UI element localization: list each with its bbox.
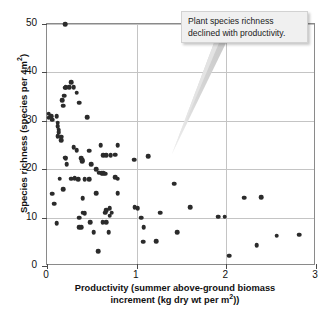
data-point bbox=[135, 206, 140, 211]
data-point bbox=[255, 243, 260, 248]
x-tick-label: 1 bbox=[126, 270, 146, 280]
data-point bbox=[96, 249, 101, 254]
annotation-callout-text: Plant species richness declined with pro… bbox=[188, 16, 303, 39]
data-point bbox=[107, 213, 112, 218]
annotation-callout-box: Plant species richness declined with pro… bbox=[181, 11, 308, 43]
data-point bbox=[158, 210, 163, 215]
data-point bbox=[72, 85, 77, 90]
data-point bbox=[79, 225, 84, 230]
gridline-horizontal bbox=[47, 218, 314, 219]
data-point bbox=[87, 177, 92, 182]
data-point bbox=[146, 154, 151, 159]
data-point bbox=[297, 232, 302, 237]
y-axis-tick bbox=[42, 24, 47, 25]
y-tick-label: 50 bbox=[15, 18, 37, 28]
data-point bbox=[175, 230, 180, 235]
data-point bbox=[61, 103, 66, 108]
y-axis-tick bbox=[42, 121, 47, 122]
data-point bbox=[50, 192, 55, 197]
y-axis-label-superscript: 2 bbox=[16, 57, 23, 61]
data-point bbox=[88, 220, 93, 225]
x-tick-label: 3 bbox=[305, 270, 325, 280]
y-tick-label: 30 bbox=[15, 115, 37, 125]
gridline-vertical bbox=[137, 24, 138, 264]
gridline-horizontal bbox=[47, 72, 314, 73]
data-point bbox=[57, 177, 62, 182]
data-point bbox=[74, 148, 79, 153]
data-point bbox=[99, 143, 104, 148]
data-point bbox=[116, 143, 121, 148]
plot-area bbox=[46, 23, 315, 265]
data-point bbox=[116, 177, 121, 182]
data-point bbox=[89, 162, 94, 167]
data-point bbox=[61, 187, 66, 192]
data-point bbox=[94, 191, 99, 196]
data-point bbox=[77, 101, 82, 106]
data-point bbox=[141, 240, 146, 245]
data-point bbox=[222, 214, 227, 219]
data-point bbox=[55, 221, 60, 226]
data-point bbox=[76, 177, 81, 182]
y-tick-label: 0 bbox=[15, 260, 37, 270]
data-point bbox=[216, 214, 221, 219]
data-point bbox=[50, 118, 55, 123]
data-point bbox=[132, 157, 137, 162]
data-point bbox=[104, 220, 109, 225]
data-point bbox=[87, 149, 92, 154]
gridline-horizontal bbox=[47, 121, 314, 122]
y-axis-tick bbox=[42, 72, 47, 73]
data-point bbox=[274, 233, 279, 238]
data-point bbox=[154, 239, 159, 244]
data-point bbox=[77, 215, 82, 220]
gridline-vertical bbox=[226, 24, 227, 264]
data-point bbox=[227, 254, 232, 259]
data-point bbox=[142, 225, 147, 230]
y-tick-label: 20 bbox=[15, 163, 37, 173]
data-point bbox=[64, 162, 69, 167]
scatter-plot-figure: Species richness (species per 4m2) Produ… bbox=[0, 0, 333, 309]
data-point bbox=[259, 195, 264, 200]
y-tick-label: 40 bbox=[15, 66, 37, 76]
data-point bbox=[81, 158, 86, 163]
x-tick-label: 2 bbox=[215, 270, 235, 280]
data-point bbox=[69, 80, 74, 85]
y-tick-label: 10 bbox=[15, 212, 37, 222]
y-axis-tick bbox=[42, 169, 47, 170]
y-axis-tick bbox=[42, 218, 47, 219]
data-point bbox=[91, 230, 96, 235]
data-point bbox=[64, 156, 69, 161]
data-point bbox=[188, 205, 193, 210]
x-axis-label-line1: Productivity (summer above-ground biomas… bbox=[75, 283, 275, 293]
data-point bbox=[242, 195, 247, 200]
gridline-horizontal bbox=[47, 169, 314, 170]
data-point bbox=[59, 138, 64, 143]
data-point bbox=[62, 93, 67, 98]
x-tick-label: 0 bbox=[36, 270, 56, 280]
data-point bbox=[103, 171, 108, 176]
data-point bbox=[139, 215, 144, 220]
x-axis-label: Productivity (summer above-ground biomas… bbox=[30, 283, 320, 306]
data-point bbox=[113, 152, 118, 157]
data-point bbox=[74, 90, 79, 95]
data-point bbox=[63, 22, 68, 27]
data-point bbox=[116, 191, 121, 196]
data-point bbox=[60, 98, 65, 103]
data-point bbox=[55, 114, 60, 119]
data-point bbox=[172, 181, 177, 186]
data-point bbox=[82, 211, 87, 216]
data-point bbox=[52, 201, 57, 206]
data-point bbox=[85, 115, 90, 120]
data-point bbox=[81, 196, 86, 201]
data-point bbox=[107, 230, 112, 235]
